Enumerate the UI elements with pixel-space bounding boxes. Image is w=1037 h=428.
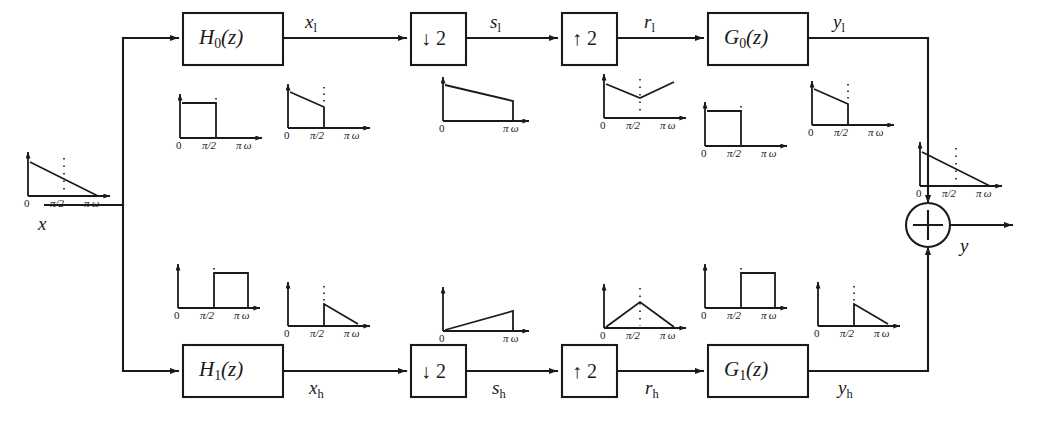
tick-halfpi-spec-h0: π/2 — [202, 140, 216, 151]
block-label-h0: H0(z) — [199, 27, 243, 51]
tick-halfpi-spec-xh: π/2 — [310, 328, 324, 339]
spectrum-xl — [288, 84, 370, 128]
tick-pi-omega-spec-sh: π ω — [503, 333, 519, 344]
tick-halfpi-spec-y: π/2 — [942, 188, 956, 199]
tick-halfpi-spec-yl: π/2 — [834, 127, 848, 138]
tick-zero-spec-xh: 0 — [284, 328, 290, 339]
signal-label-xl: xl — [305, 12, 317, 34]
tick-halfpi-spec-xl: π/2 — [310, 130, 324, 141]
signal-label-sh: sh — [492, 378, 506, 400]
block-label-upsample-bottom: ↑ 2 — [572, 361, 597, 381]
block-label-h1: H1(z) — [199, 359, 243, 383]
block-label-downsample-bottom: ↓ 2 — [421, 361, 446, 381]
tick-pi-omega-spec-sl: π ω — [503, 123, 519, 134]
spectrum-x — [28, 152, 110, 196]
signal-label-xh: xh — [309, 378, 324, 400]
tick-pi-omega-spec-g0: π ω — [761, 148, 777, 159]
tick-pi-omega-spec-xl: π ω — [344, 130, 360, 141]
tick-halfpi-spec-rl: π/2 — [626, 120, 640, 131]
tick-pi-omega-spec-g1: π ω — [761, 310, 777, 321]
signal-label-rh: rh — [645, 378, 659, 400]
spectrum-sh — [443, 287, 529, 331]
spectrum-yh — [818, 282, 900, 326]
tick-zero-spec-x: 0 — [24, 198, 30, 209]
signal-wires — [45, 38, 1012, 371]
spectrum-h0 — [180, 94, 262, 138]
spectrum-g1 — [705, 264, 787, 308]
figure-canvas: H0(z) H1(z) G0(z) G1(z) ↓ 2 ↓ 2 ↑ 2 ↑ 2 … — [0, 0, 1037, 428]
tick-halfpi-spec-h1: π/2 — [200, 310, 214, 321]
spectrum-rl — [604, 74, 686, 118]
spectrum-sl — [443, 77, 529, 121]
tick-zero-spec-g1: 0 — [701, 310, 707, 321]
tick-halfpi-spec-x: π/2 — [50, 198, 64, 209]
tick-halfpi-spec-g0: π/2 — [727, 148, 741, 159]
tick-zero-spec-yh: 0 — [814, 328, 820, 339]
tick-pi-omega-spec-h1: π ω — [234, 310, 250, 321]
tick-halfpi-spec-rh: π/2 — [626, 330, 640, 341]
tick-zero-spec-yl: 0 — [808, 127, 814, 138]
spectrum-yl — [812, 81, 894, 125]
block-label-g1: G1(z) — [724, 359, 768, 383]
tick-pi-omega-spec-rl: π ω — [660, 120, 676, 131]
tick-zero-spec-g0: 0 — [701, 148, 707, 159]
tick-pi-omega-spec-yh: π ω — [874, 328, 890, 339]
tick-zero-spec-h0: 0 — [176, 140, 182, 151]
tick-halfpi-spec-yh: π/2 — [840, 328, 854, 339]
tick-pi-omega-spec-x: π ω — [84, 198, 100, 209]
block-diagram-svg — [0, 0, 1037, 428]
signal-label-rl: rl — [644, 12, 655, 34]
tick-pi-omega-spec-yl: π ω — [868, 127, 884, 138]
tick-pi-omega-spec-h0: π ω — [236, 140, 252, 151]
spectrum-g0 — [705, 102, 787, 146]
tick-halfpi-spec-g1: π/2 — [727, 310, 741, 321]
block-label-g0: G0(z) — [724, 27, 768, 51]
tick-zero-spec-sh: 0 — [439, 333, 445, 344]
tick-pi-omega-spec-rh: π ω — [660, 330, 676, 341]
tick-pi-omega-spec-xh: π ω — [344, 328, 360, 339]
block-label-downsample-top: ↓ 2 — [421, 28, 446, 48]
signal-label-yl: yl — [833, 12, 845, 34]
signal-label-yh: yh — [838, 378, 853, 400]
spectrum-xh — [288, 282, 370, 326]
tick-zero-spec-sl: 0 — [439, 123, 445, 134]
adder-junction[interactable] — [906, 203, 950, 247]
block-label-upsample-top: ↑ 2 — [572, 28, 597, 48]
tick-zero-spec-rl: 0 — [600, 120, 606, 131]
signal-label-y: y — [960, 236, 968, 255]
spectrum-rh — [604, 284, 686, 328]
tick-zero-spec-rh: 0 — [600, 330, 606, 341]
spectrum-h1 — [178, 264, 260, 308]
tick-zero-spec-xl: 0 — [284, 130, 290, 141]
tick-pi-omega-spec-y: π ω — [976, 188, 992, 199]
signal-label-x: x — [38, 214, 46, 233]
spectrum-y — [920, 142, 1002, 186]
tick-zero-spec-h1: 0 — [174, 310, 180, 321]
signal-label-sl: sl — [490, 12, 501, 34]
tick-zero-spec-y: 0 — [916, 188, 922, 199]
